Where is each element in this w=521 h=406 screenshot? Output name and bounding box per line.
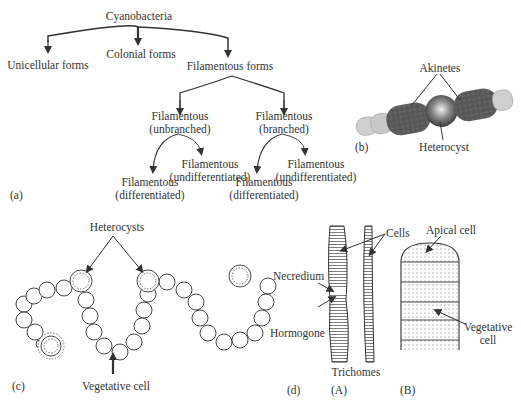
leaf-line2: (undifferentiated) <box>276 171 357 184</box>
trichome-b <box>364 226 374 362</box>
label-necredium: Necredium <box>273 270 324 283</box>
classification-tree <box>48 26 305 170</box>
root-node-cyanobacteria: Cyanobacteria <box>106 10 172 23</box>
sublabel-a: (A) <box>331 384 347 397</box>
node-colonial-forms: Colonial forms <box>106 48 175 61</box>
node-line1: Filamentous <box>256 110 313 123</box>
panel-label-b: (b) <box>355 141 368 154</box>
leaf-branched-undifferentiated: Filamentous (undifferentiated) <box>276 158 357 184</box>
label-line2: cell <box>464 334 513 347</box>
apical-filament <box>401 236 465 350</box>
panel-label-c: (c) <box>12 380 25 393</box>
node-line2: (unbranched) <box>149 123 210 136</box>
label-cells: Cells <box>386 227 410 240</box>
filament-with-akinetes <box>353 83 515 143</box>
label-hormogone: Hormogone <box>270 327 325 340</box>
panel-label-a: (a) <box>10 189 23 202</box>
node-line2: (branched) <box>256 123 313 136</box>
label-vegetative-cell: Vegetative cell <box>82 380 150 393</box>
panel-d-pointers <box>318 234 385 307</box>
sublabel-b: (B) <box>400 384 415 397</box>
label-line1: Vegetative <box>464 321 513 334</box>
panel-label-d: (d) <box>287 384 300 397</box>
trichome-a <box>329 226 349 362</box>
leaf-line2: (differentiated) <box>115 189 184 202</box>
label-trichomes: Trichomes <box>332 366 381 379</box>
node-filamentous-branched: Filamentous (branched) <box>256 110 313 136</box>
leaf-line1: Filamentous <box>170 158 251 171</box>
leaf-line1: Filamentous <box>276 158 357 171</box>
leaf-line2: (differentiated) <box>229 189 298 202</box>
label-akinetes: Akinetes <box>420 62 461 75</box>
node-filamentous-forms: Filamentous forms <box>187 60 274 73</box>
label-apical-cell: Apical cell <box>426 224 476 237</box>
node-unicellular-forms: Unicellular forms <box>7 59 88 72</box>
node-filamentous-unbranched: Filamentous (unbranched) <box>149 110 210 136</box>
label-heterocyst: Heterocyst <box>419 141 469 154</box>
label-vegetative-cell-b: Vegetative cell <box>464 321 513 347</box>
node-line1: Filamentous <box>149 110 210 123</box>
label-heterocysts: Heterocysts <box>90 221 144 234</box>
